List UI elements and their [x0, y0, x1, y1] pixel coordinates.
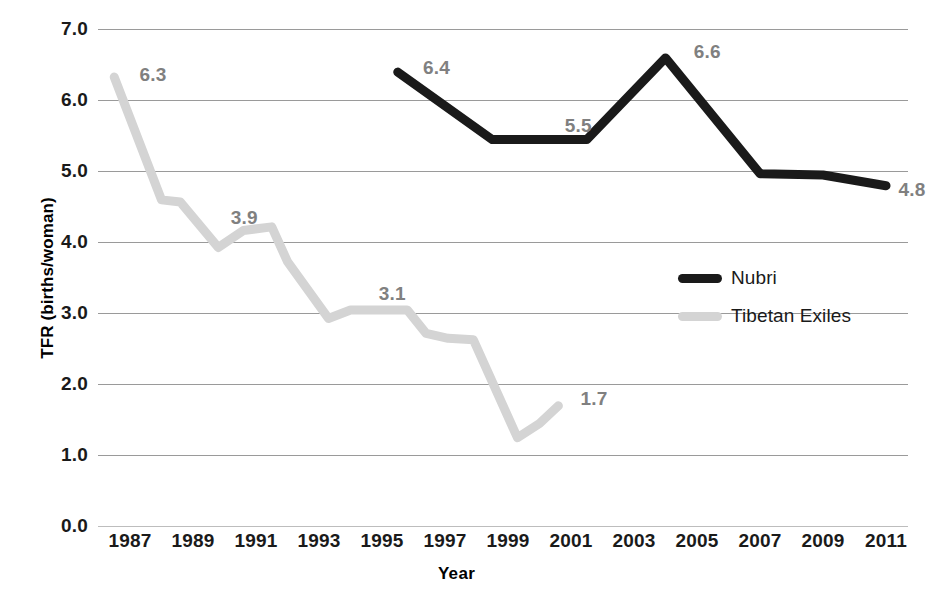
x-axis-tick-label: 2005 [666, 530, 728, 552]
y-axis-tick-label: 6.0 [36, 89, 88, 111]
data-point-label: 3.1 [379, 283, 406, 305]
x-axis-tick-label: 2001 [540, 530, 602, 552]
data-point-label: 6.4 [423, 57, 450, 79]
x-axis-tick-label: 1995 [351, 530, 413, 552]
y-axis-title: TFR (births/woman) [38, 163, 58, 393]
x-axis-tick-label: 2007 [729, 530, 791, 552]
legend-swatch [678, 274, 722, 283]
data-point-label: 4.8 [899, 179, 926, 201]
legend-item-nubri: Nubri [678, 267, 777, 289]
x-axis-tick-label: 2003 [603, 530, 665, 552]
x-axis-title: Year [0, 564, 913, 584]
x-axis-tick-label: 2011 [855, 530, 917, 552]
y-axis-tick-label: 0.0 [36, 515, 88, 537]
data-point-label: 6.6 [694, 41, 721, 63]
data-point-label: 3.9 [231, 207, 258, 229]
x-axis-tick-label: 1987 [99, 530, 161, 552]
x-axis-tick-label: 1999 [477, 530, 539, 552]
legend-item-tibetan-exiles: Tibetan Exiles [678, 305, 851, 327]
x-axis-tick-label: 2009 [792, 530, 854, 552]
data-point-label: 1.7 [580, 388, 607, 410]
y-axis-tick-label: 7.0 [36, 18, 88, 40]
data-series-lines [114, 58, 886, 438]
legend-swatch [678, 312, 722, 321]
x-axis-tick-label: 1991 [225, 530, 287, 552]
x-axis-tick-label: 1993 [288, 530, 350, 552]
gridlines [98, 30, 908, 527]
legend-label: Tibetan Exiles [731, 305, 851, 327]
data-point-label: 5.5 [565, 115, 592, 137]
y-axis-tick-label: 1.0 [36, 444, 88, 466]
series-line-nubri [398, 58, 886, 186]
legend-label: Nubri [731, 267, 777, 289]
x-axis-tick-label: 1997 [414, 530, 476, 552]
series-line-tibetan-exiles [114, 77, 558, 438]
x-axis-tick-label: 1989 [162, 530, 224, 552]
data-point-label: 6.3 [139, 64, 166, 86]
